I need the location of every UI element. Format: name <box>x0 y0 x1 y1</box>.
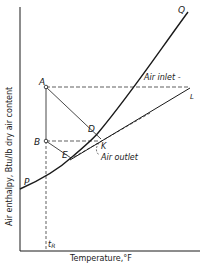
label-B: B <box>34 137 40 147</box>
label-P: P <box>24 177 30 187</box>
air-inlet-label: Air inlet - <box>143 73 181 82</box>
label-Q: Q <box>178 5 185 15</box>
label-D: D <box>88 124 95 134</box>
label-A: A <box>38 77 45 87</box>
label-K: K <box>101 142 107 151</box>
point-B-marker <box>44 139 48 143</box>
label-L: L <box>190 93 194 101</box>
air-outlet-leader <box>96 143 99 155</box>
t-R-label: tR <box>48 240 55 249</box>
label-E: E <box>62 150 68 160</box>
x-axis-label: Temperature,°F <box>69 254 132 263</box>
y-axis-label: Air enthalpy, Btu/lb dry air content <box>5 87 14 226</box>
saturation-curve-PQ <box>20 12 188 189</box>
air-outlet-label: Air outlet <box>100 153 139 162</box>
enthalpy-temperature-diagram: A B D E K P Q L Air inlet - Air outlet t… <box>0 0 201 263</box>
